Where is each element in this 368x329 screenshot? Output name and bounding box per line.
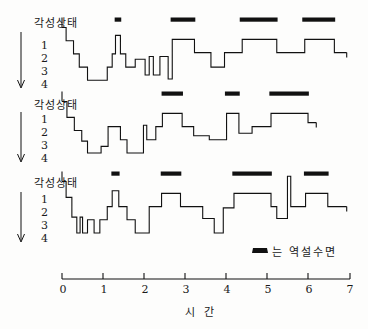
x-axis	[62, 273, 350, 279]
rem-period-bar	[269, 92, 309, 96]
rem-bar-swatch-icon	[252, 248, 268, 253]
rem-period-bar	[162, 92, 183, 96]
down-arrow-icon-panel-1	[18, 32, 25, 88]
rem-period-bar	[111, 172, 119, 176]
sleep-stage-step-line	[62, 176, 347, 233]
rem-period-bar	[115, 18, 122, 22]
rem-period-bar	[304, 172, 329, 176]
rem-period-bar	[171, 18, 196, 22]
hypnogram-trace-3	[62, 172, 347, 233]
down-arrow-icon-panel-2	[18, 112, 25, 162]
rem-period-bar	[225, 92, 240, 96]
sleep-stage-step-line	[62, 28, 347, 81]
rem-period-bar	[240, 18, 278, 22]
sleep-stage-step-line	[62, 102, 316, 153]
down-arrow-icon-panel-3	[18, 192, 25, 242]
hypnogram-trace-1	[62, 18, 347, 81]
hypnogram-figure: 각성상태 1 2 3 4 각성상태 1 2 3 4 각성상태 1 2 3 4 0…	[0, 0, 368, 329]
rem-period-bar	[232, 172, 272, 176]
rem-period-bar	[302, 18, 335, 22]
rem-period-bar	[161, 172, 182, 176]
plot-canvas	[0, 0, 368, 329]
hypnogram-trace-2	[62, 92, 316, 153]
